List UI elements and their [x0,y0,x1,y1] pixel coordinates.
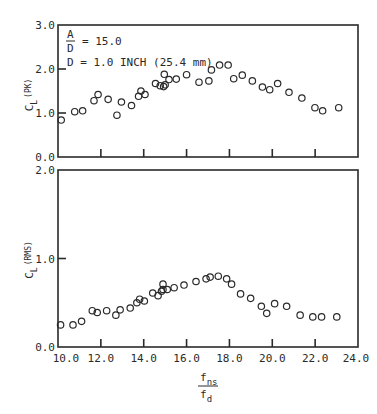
data-point [58,117,64,123]
annotation-box: A D = 15.0 D = 1.0 INCH (25.4 mm) [66,28,213,69]
data-point [118,99,124,105]
data-point [171,285,177,291]
data-point [128,102,134,108]
data-point [161,71,167,77]
data-point [127,305,133,311]
data-point [297,312,303,318]
x-tick-label: 10.0 [53,352,80,365]
data-point [318,314,324,320]
x-tick-label: 14.0 [130,352,157,365]
panel-cl-rms: 0.01.02.0 CL(RMS) [23,164,358,354]
data-point [283,303,289,309]
y-axis-ticks-top: 0.01.02.03.0 [35,19,66,164]
x-tick-label: 12.0 [88,352,115,365]
data-point [334,314,340,320]
data-series-cl-rms [57,273,340,328]
ratio-numerator: A [67,28,74,41]
data-point [223,276,229,282]
data-point [103,308,109,314]
data-point [216,62,222,68]
data-point [225,62,231,68]
data-point [72,108,78,114]
data-point [286,89,292,95]
x-axis-tick-labels: 10.012.014.016.018.020.022.024.0 [53,352,370,365]
data-point [239,72,245,78]
data-point [228,281,234,287]
ylabel-sub: L [30,267,39,272]
data-point [247,295,253,301]
x-tick-label: 18.0 [216,352,243,365]
y-tick-label: 1.0 [35,253,55,266]
data-point [95,91,101,97]
data-point [231,75,237,81]
data-point [237,291,243,297]
y-tick-label: 3.0 [35,19,55,32]
data-point [310,314,316,320]
data-point [193,278,199,284]
data-point [319,108,325,114]
ylabel-main: C [23,272,36,279]
y-axis-ticks-bottom: 0.01.02.0 [35,164,66,354]
data-point [142,91,148,97]
data-point [271,300,277,306]
data-point [164,286,170,292]
data-point [91,97,97,103]
data-point [274,80,280,86]
data-point [312,105,318,111]
data-point [79,108,85,114]
xlabel-numerator: f [200,371,207,384]
data-point [105,96,111,102]
data-point [299,95,305,101]
svg-text:fd: fd [200,388,212,404]
y-tick-label: 0.0 [35,151,55,164]
ylabel-paren: (PK) [24,79,33,98]
panel-cl-pk: 0.01.02.03.0 A D = 15.0 D = 1.0 INCH (25… [23,19,358,164]
chart-canvas: 0.01.02.03.0 A D = 15.0 D = 1.0 INCH (25… [0,0,377,414]
data-point [166,76,172,82]
data-point [70,322,76,328]
data-point [203,276,209,282]
data-point [259,84,265,90]
y-tick-label: 2.0 [35,164,55,177]
data-point [207,274,213,280]
data-point [114,112,120,118]
x-axis-label: fns fd [198,371,218,404]
x-tick-label: 24.0 [343,352,370,365]
data-point [183,72,189,78]
ylabel-main: C [23,105,36,112]
data-series-cl-pk [58,62,342,123]
data-point [215,273,221,279]
ratio-denominator: D [67,42,74,55]
data-point [155,292,161,298]
x-tick-label: 20.0 [259,352,286,365]
data-point [258,303,264,309]
ylabel-sub: L [30,100,39,105]
data-point [206,78,212,84]
data-point [173,76,179,82]
figure: 0.01.02.03.0 A D = 15.0 D = 1.0 INCH (25… [0,0,377,414]
data-point [138,88,144,94]
data-point [117,307,123,313]
data-point [249,78,255,84]
x-axis-ticks-top [101,149,315,157]
svg-text:fns: fns [200,371,217,387]
xlabel-denominator-sub: d [207,394,212,404]
x-tick-label: 16.0 [173,352,200,365]
xlabel-denominator: f [200,388,207,401]
x-tick-label: 22.0 [302,352,329,365]
x-axis-ticks-bottom [101,339,315,347]
diameter-label: D = 1.0 INCH (25.4 mm) [67,56,213,69]
data-point [78,318,84,324]
data-point [196,79,202,85]
data-point [181,282,187,288]
data-point [264,310,270,316]
y-tick-label: 2.0 [35,63,55,76]
y-tick-label: 1.0 [35,107,55,120]
data-point [336,105,342,111]
data-point [267,86,273,92]
ylabel-paren: (RMS) [24,241,33,265]
ratio-value: = 15.0 [82,35,122,48]
